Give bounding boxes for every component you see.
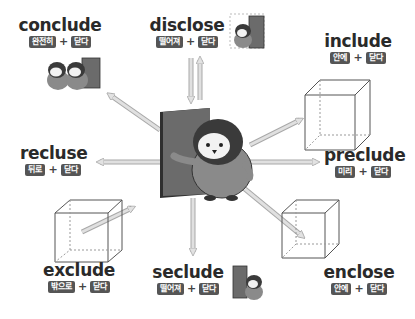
prefix-tag: 떨어져 [156, 36, 183, 48]
root-tag: 닫다 [371, 166, 391, 178]
word-seclude: seclude 떨어져 + 닫다 [150, 263, 226, 295]
prefix-tag: 밖으로 [48, 281, 75, 293]
plus-sign: + [78, 282, 87, 292]
word-family-diagram: conclude 완전히 + 닫다 disclose 떨어져 + 닫다 incl… [0, 0, 415, 319]
word-conclude: conclude 완전히 + 닫다 [18, 16, 102, 48]
root-tag: 닫다 [366, 52, 386, 64]
prefix-tag: 뒤로 [25, 164, 45, 176]
word-english: seclude [150, 263, 226, 281]
plus-sign: + [59, 37, 68, 47]
word-enclose: enclose 안에 + 닫다 [322, 263, 396, 295]
root-tag: 닫다 [90, 281, 110, 293]
root-tag: 닫다 [71, 36, 91, 48]
root-tag: 닫다 [61, 164, 81, 176]
plus-sign: + [48, 165, 57, 175]
arrow-enclose-icon [240, 185, 302, 236]
prefix-tag: 안에 [330, 52, 350, 64]
conclude-penguins-icon [47, 58, 100, 90]
arrow-conclude-icon [110, 95, 160, 130]
word-parts: 안에 + 닫다 [318, 52, 398, 64]
word-exclude: exclude 밖으로 + 닫다 [40, 261, 118, 293]
prefix-tag: 미리 [335, 166, 355, 178]
prefix-tag: 안에 [331, 283, 351, 295]
word-parts: 안에 + 닫다 [322, 283, 396, 295]
plus-sign: + [187, 284, 196, 294]
word-english: include [318, 32, 398, 50]
word-recluse: recluse 뒤로 + 닫다 [20, 144, 86, 176]
plus-sign: + [353, 53, 362, 63]
word-preclude: preclude 미리 + 닫다 [324, 146, 402, 178]
prefix-tag: 완전히 [29, 36, 56, 48]
word-parts: 떨어져 + 닫다 [146, 36, 228, 48]
seclude-penguin-icon [233, 266, 263, 300]
word-english: preclude [324, 146, 402, 164]
word-parts: 밖으로 + 닫다 [40, 281, 118, 293]
word-english: recluse [20, 144, 86, 162]
word-parts: 떨어져 + 닫다 [150, 283, 226, 295]
word-english: disclose [146, 16, 228, 34]
root-tag: 닫다 [198, 36, 218, 48]
word-disclose: disclose 떨어져 + 닫다 [146, 16, 228, 48]
arrow-exclude-icon [82, 208, 132, 232]
plus-sign: + [186, 37, 195, 47]
word-english: exclude [40, 261, 118, 279]
root-tag: 닫다 [367, 283, 387, 295]
word-english: enclose [322, 263, 396, 281]
word-english: conclude [18, 16, 102, 34]
plus-sign: + [358, 167, 367, 177]
prefix-tag: 떨어져 [157, 283, 184, 295]
word-parts: 뒤로 + 닫다 [20, 164, 86, 176]
word-parts: 미리 + 닫다 [324, 166, 402, 178]
word-parts: 완전히 + 닫다 [18, 36, 102, 48]
arrow-include-icon [250, 120, 300, 145]
root-tag: 닫다 [199, 283, 219, 295]
word-include: include 안에 + 닫다 [318, 32, 398, 64]
disclose-penguin-icon [230, 14, 264, 48]
include-box-icon [305, 80, 370, 150]
plus-sign: + [354, 284, 363, 294]
